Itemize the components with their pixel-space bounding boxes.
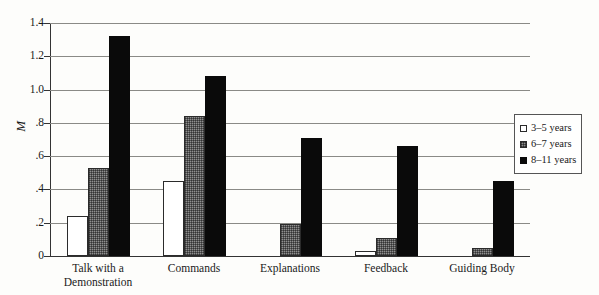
x-category-label-line: Demonstration <box>50 276 146 290</box>
bar-group <box>67 23 130 256</box>
bar <box>376 238 397 256</box>
x-category-label: Feedback <box>338 262 434 276</box>
x-category-label: Guiding Body <box>434 262 530 276</box>
y-tick-label: 1.0 <box>18 84 44 96</box>
x-category-label-line: Explanations <box>242 262 338 276</box>
y-axis-tick-labels: 1.41.21.0.8.6.4.20 <box>12 0 44 295</box>
bar <box>397 146 418 256</box>
y-tick-label: 0 <box>18 250 44 262</box>
legend-item: 6–7 years <box>520 136 577 152</box>
x-category-label-line: Talk with a <box>50 262 146 276</box>
bar <box>184 116 205 256</box>
bar <box>88 168 109 256</box>
legend-label: 8–11 years <box>531 155 576 166</box>
y-tick-label: 1.2 <box>18 51 44 63</box>
y-tick-label: .8 <box>18 117 44 129</box>
legend-item: 8–11 years <box>520 152 577 168</box>
x-category-label-line: Feedback <box>338 262 434 276</box>
bar <box>205 76 226 256</box>
y-tick-label: .2 <box>18 217 44 229</box>
x-category-label-line: Commands <box>146 262 242 276</box>
legend-label: 6–7 years <box>531 139 572 150</box>
bar <box>163 181 184 256</box>
bar <box>67 216 88 256</box>
bar-group <box>451 23 514 256</box>
x-category-label: Commands <box>146 262 242 276</box>
x-category-label-line: Guiding Body <box>434 262 530 276</box>
bar-group <box>355 23 418 256</box>
bar-group <box>259 23 322 256</box>
legend-swatch-icon <box>520 157 527 164</box>
legend-label: 3–5 years <box>531 123 572 134</box>
y-tick-label: 1.4 <box>18 17 44 29</box>
bar <box>355 251 376 256</box>
legend-swatch-icon <box>520 125 527 132</box>
bar <box>493 181 514 256</box>
x-axis-line <box>50 256 530 257</box>
bar <box>301 138 322 256</box>
bar <box>472 248 493 256</box>
x-category-label: Talk with aDemonstration <box>50 262 146 289</box>
y-tick-label: .6 <box>18 150 44 162</box>
legend-item: 3–5 years <box>520 120 577 136</box>
y-tick-label: .4 <box>18 184 44 196</box>
bar <box>109 36 130 256</box>
bar-chart: M 1.41.21.0.8.6.4.20 Talk with aDemonstr… <box>0 0 599 295</box>
bar-group <box>163 23 226 256</box>
legend: 3–5 years6–7 years8–11 years <box>514 114 582 174</box>
bar <box>280 224 301 256</box>
x-category-label: Explanations <box>242 262 338 276</box>
plot-area <box>50 23 530 256</box>
legend-swatch-icon <box>520 141 527 148</box>
